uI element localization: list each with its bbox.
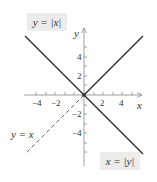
x-axis-label: x <box>136 99 142 111</box>
x-tick-label: 4 <box>119 98 124 108</box>
label-y-eq-x: y = x <box>11 128 34 140</box>
x-tick-label: 2 <box>100 98 105 108</box>
label-y-abs-x: y = |x| <box>27 13 67 31</box>
label-x-abs-y: x = |y| <box>100 152 140 170</box>
y-tick-label: 4 <box>77 52 82 62</box>
y-tick-label: −2 <box>72 109 82 119</box>
x-tick-label: −2 <box>51 98 61 108</box>
x-tick-label: −4 <box>32 98 42 108</box>
y-axis-label: y <box>73 27 79 39</box>
curve-x-abs-y <box>84 95 143 154</box>
origin-point <box>82 93 86 97</box>
y-tick-label: −4 <box>72 128 82 138</box>
y-tick-label: 2 <box>77 71 82 81</box>
